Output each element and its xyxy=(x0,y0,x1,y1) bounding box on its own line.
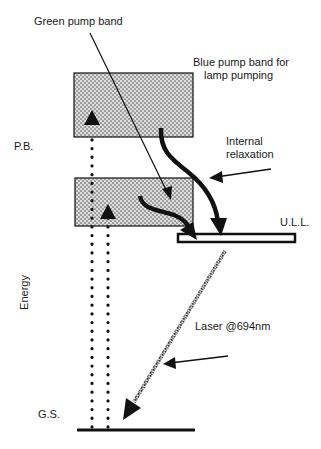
pump-arrow-to-green-band xyxy=(100,204,116,427)
energy-axis-label: Energy xyxy=(18,269,31,317)
laser-label-pointer xyxy=(163,356,228,369)
blue-pump-band-box xyxy=(74,73,193,137)
green-pump-band-label: Green pump band xyxy=(34,15,123,28)
blue-pump-band-label-line1: Blue pump band for xyxy=(193,56,289,69)
internal-relaxation-pointer xyxy=(209,169,271,183)
pump-arrow-to-blue-band xyxy=(84,110,100,427)
laser-transition-arrow xyxy=(123,251,225,420)
pump-bands-label: P.B. xyxy=(14,140,33,153)
laser-wavelength-label: Laser @694nm xyxy=(195,320,270,333)
internal-relaxation-label-line1: Internal xyxy=(226,135,263,148)
ground-state-label: G.S. xyxy=(38,408,60,421)
upper-laser-level-label: U.L.L. xyxy=(280,216,309,229)
blue-pump-band-label-line2: lamp pumping xyxy=(204,69,273,82)
internal-relaxation-label-line2: relaxation xyxy=(226,148,274,161)
